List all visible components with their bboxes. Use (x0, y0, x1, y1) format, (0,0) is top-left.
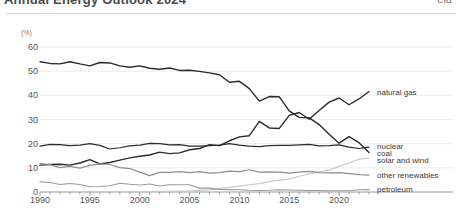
chart-container: (%) 0102030405060 1990199520002005201020… (0, 14, 462, 221)
x-axis-tick-label: 2005 (180, 195, 200, 205)
x-axis-tick-label: 1995 (80, 195, 100, 205)
y-axis-tick-label: 50 (16, 66, 38, 76)
chart-page: Annual Energy Outlook 2024 eia (%) 01020… (0, 0, 462, 221)
y-axis-tick-label: 40 (16, 90, 38, 100)
header-brand-label: eia (437, 0, 452, 5)
series-label-nuclear: nuclear (377, 141, 403, 150)
series-label-natural-gas: natural gas (377, 87, 417, 96)
x-axis-tick-label: 2020 (329, 195, 349, 205)
x-axis-tick-label: 1990 (30, 195, 50, 205)
y-axis-tick-label: 10 (16, 163, 38, 173)
x-axis-tick-label: 2000 (130, 195, 150, 205)
series-line-natural-gas (40, 91, 369, 165)
series-line-nuclear (40, 143, 369, 149)
series-label-solar-and-wind: solar and wind (377, 155, 429, 164)
y-axis-tick-label: 60 (16, 42, 38, 52)
series-label-petroleum: petroleum (377, 185, 413, 194)
series-line-coal (40, 62, 369, 153)
page-title: Annual Energy Outlook 2024 (4, 0, 186, 7)
x-axis-tick-label: 2010 (229, 195, 249, 205)
series-line-petroleum (40, 182, 369, 191)
y-axis-tick-label: 30 (16, 115, 38, 125)
series-label-other-renewables: other renewables (377, 171, 438, 180)
series-line-other-renewables (40, 163, 369, 175)
page-header: Annual Energy Outlook 2024 eia (0, 0, 462, 13)
y-axis-tick-label: 20 (16, 139, 38, 149)
x-axis-tick-label: 2015 (279, 195, 299, 205)
